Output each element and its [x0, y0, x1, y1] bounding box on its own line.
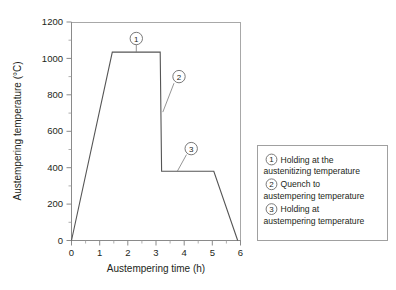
y-tick-label-800: 800: [47, 89, 63, 100]
thermal-cycle-curve: [72, 52, 238, 240]
legend: 1 Holding at the austenitizing temperatu…: [258, 146, 388, 241]
y-tick-label-0: 0: [58, 235, 63, 246]
x-axis-tick-labels: 0 1 2 3 4 5 6: [69, 247, 243, 258]
y-tick-label-600: 600: [47, 125, 63, 136]
legend-marker-label-3: 3: [269, 205, 274, 214]
x-tick-label-6: 6: [238, 247, 243, 258]
y-axis-ticks: [67, 22, 72, 241]
legend-item-2-line2: austempering temperature: [264, 191, 365, 201]
y-tick-label-1000: 1000: [42, 53, 63, 64]
x-axis-ticks: [72, 241, 241, 246]
x-tick-label-2: 2: [125, 247, 130, 258]
legend-marker-label-1: 1: [269, 155, 274, 164]
annotation-3-marker-label: 3: [189, 145, 194, 154]
annotation-2-marker-label: 2: [177, 73, 182, 82]
annotation-1-marker-label: 1: [134, 35, 139, 44]
y-tick-label-200: 200: [47, 198, 63, 209]
y-tick-label-400: 400: [47, 162, 63, 173]
plot-frame: [71, 22, 241, 241]
legend-item-3-line1: Holding at: [281, 204, 320, 214]
x-tick-label-1: 1: [97, 247, 102, 258]
x-tick-label-3: 3: [153, 247, 158, 258]
legend-item-3-line2: austempering temperature: [264, 216, 365, 226]
legend-marker-label-2: 2: [269, 180, 274, 189]
legend-item-1-line1: Holding at the: [281, 155, 334, 165]
x-tick-label-5: 5: [210, 247, 215, 258]
y-axis-title: Austempering temperature (°C): [12, 61, 23, 200]
x-tick-label-0: 0: [69, 247, 74, 258]
annotation-2: 2: [163, 70, 185, 112]
annotation-1: 1: [130, 32, 142, 52]
annotation-3: 3: [177, 142, 197, 171]
legend-item-2-line1: Quench to: [281, 179, 321, 189]
legend-item-1-line2: austenitizing temperature: [264, 166, 361, 176]
x-tick-label-4: 4: [182, 247, 187, 258]
austempering-cycle-figure: 0 200 400 600 800 1000 1200: [0, 0, 396, 290]
annotation-3-leader: [177, 155, 186, 172]
annotation-2-leader: [163, 83, 174, 112]
chart-svg: 0 200 400 600 800 1000 1200: [0, 0, 396, 290]
x-axis-title: Austempering time (h): [107, 263, 205, 274]
y-axis-tick-labels: 0 200 400 600 800 1000 1200: [42, 16, 63, 246]
y-tick-label-1200: 1200: [42, 16, 63, 27]
